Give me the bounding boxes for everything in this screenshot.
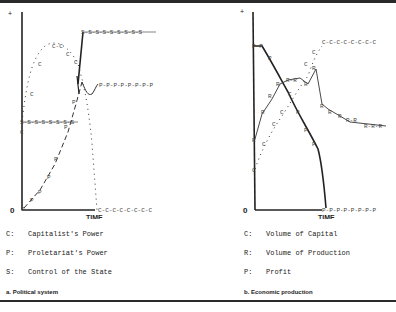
svg-text:P: P [21,206,25,213]
svg-text:R: R [304,81,308,88]
x-axis-label: TIME [318,214,335,219]
y-axis-plus: + [240,8,244,15]
svg-text:P: P [312,141,316,148]
svg-text:R: R [312,65,316,72]
chart-political-system: + 0 TIME S-S-S-S-S-S-S-S S-S-S-S-S-S-S-S… [0,4,200,219]
svg-text:P: P [304,127,308,134]
panel-economic-production: + 0 TIME P-P P P P P P-P-P-P-P-P-P-P R R… [200,4,396,300]
chart-economic-production: + 0 TIME P-P P P P P P-P-P-P-P-P-P-P R R… [200,4,396,219]
svg-text:R: R [338,113,342,120]
y-axis-plus: + [8,10,12,17]
svg-text:C: C [38,61,42,68]
legend-economic: C: Volume of Capital R: Volume of Produc… [244,230,350,287]
legend-item: R: Volume of Production [244,249,350,268]
origin-label: 0 [243,206,248,215]
svg-text:C-C-C-C-C-C-C-C: C-C-C-C-C-C-C-C [98,207,152,214]
svg-text:C: C [20,129,24,136]
panel-political-system: + 0 TIME S-S-S-S-S-S-S-S S-S-S-S-S-S-S-S… [0,4,200,300]
svg-text:P: P [38,189,42,196]
svg-text:R-R-R: R-R-R [364,123,382,130]
legend-item: P: Profit [244,268,350,287]
svg-text:C: C [74,59,78,66]
svg-text:C: C [272,121,276,128]
caption-political: a. Political system [6,289,58,295]
svg-text:R-R: R-R [286,77,297,84]
bottom-rule [0,300,396,302]
legend-item: P: Proletariat's Power [6,249,112,268]
svg-text:C: C [30,91,34,98]
series-control-of-state: S-S-S-S-S-S-S-S S-S-S-S-S-S-S-S-S [20,29,156,126]
svg-text:R: R [261,109,265,116]
svg-text:R-R: R-R [346,117,357,124]
svg-text:R: R [276,81,280,88]
svg-text:P: P [296,109,300,116]
legend-political: C: Capitalist's Power P: Proletariat's P… [6,230,112,287]
x-axis-label: TIME [86,214,103,219]
svg-text:R: R [268,93,272,100]
svg-text:P: P [30,197,34,204]
svg-text:S-S-S-S-S-S-S-S-S: S-S-S-S-S-S-S-S-S [81,29,143,36]
origin-label: 0 [10,206,15,215]
svg-text:P: P [54,156,58,163]
series-proletariats-power: P P P P P P P P-P-P-P-P-P-P-P [21,82,153,213]
svg-text:R: R [320,103,324,110]
svg-text:P: P [64,124,68,131]
svg-text:P: P [47,174,51,181]
svg-text:C: C [312,49,316,56]
legend-item: C: Capitalist's Power [6,230,112,249]
y-axis [253,12,255,210]
svg-text:C: C [304,61,308,68]
caption-economic: b. Economic production [244,289,313,295]
svg-text:C: C [252,167,256,174]
svg-text:R: R [252,137,256,144]
svg-text:P: P [268,55,272,62]
svg-text:C-C: C-C [52,43,63,50]
svg-text:P-P: P-P [252,43,263,50]
svg-text:R: R [328,109,332,116]
svg-text:C-C-C-C-C-C-C-C: C-C-C-C-C-C-C-C [322,39,376,46]
svg-text:P-P-P-P-P-P-P-P: P-P-P-P-P-P-P-P [99,82,153,89]
legend-item: C: Volume of Capital [244,230,350,249]
svg-text:C: C [280,109,284,116]
svg-text:C: C [66,51,70,58]
svg-text:P: P [72,99,76,106]
svg-text:C: C [262,141,266,148]
svg-text:C: C [288,91,292,98]
svg-text:P-P-P-P-P-P-P-P: P-P-P-P-P-P-P-P [322,207,376,214]
top-rule [0,0,396,3]
legend-item: S: Control of the State [6,268,112,287]
